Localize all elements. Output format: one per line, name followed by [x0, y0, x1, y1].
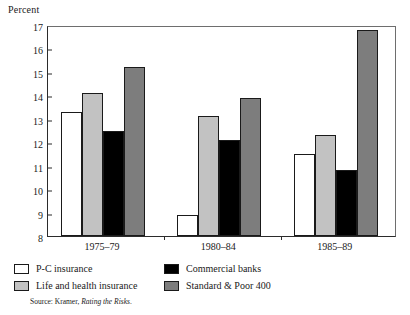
- bar: [124, 67, 145, 236]
- y-tick-label: 15: [33, 68, 48, 79]
- bar: [219, 140, 240, 236]
- y-tick-label: 12: [33, 139, 48, 150]
- bar: [336, 170, 357, 236]
- y-tickmark: [48, 120, 52, 121]
- y-tick-label: 8: [38, 233, 48, 244]
- y-tick-label: 11: [33, 162, 48, 173]
- legend-label: Standard & Poor 400: [186, 280, 271, 291]
- bar: [177, 215, 198, 236]
- plot-area: 891011121314151617: [47, 26, 396, 237]
- legend-item: Commercial banks: [164, 261, 271, 276]
- bar: [82, 93, 103, 236]
- y-tick-label: 13: [33, 115, 48, 126]
- bar: [61, 112, 82, 236]
- x-tickmark: [164, 236, 165, 240]
- y-tickmark: [48, 214, 52, 215]
- y-tickmark: [48, 191, 52, 192]
- y-tickmark: [48, 144, 52, 145]
- y-tickmark: [48, 167, 52, 168]
- y-tick-label: 14: [33, 92, 48, 103]
- bar: [103, 131, 124, 237]
- legend-item: Life and health insurance: [14, 278, 137, 293]
- source-suffix: .: [130, 297, 132, 306]
- legend-label: P-C insurance: [36, 263, 92, 274]
- legend-column-right: Commercial banksStandard & Poor 400: [164, 261, 271, 295]
- y-tick-label: 17: [33, 22, 48, 33]
- legend-swatch: [164, 264, 179, 274]
- x-axis-label: 1980–84: [201, 241, 236, 252]
- bar: [294, 154, 315, 236]
- x-axis-label: 1975–79: [85, 241, 120, 252]
- source-note: Source: Kramer, Rating the Risks.: [30, 297, 132, 306]
- y-axis-title: Percent: [8, 4, 39, 15]
- legend-swatch: [14, 264, 29, 274]
- legend-column-left: P-C insuranceLife and health insurance: [14, 261, 137, 295]
- legend-label: Commercial banks: [186, 263, 261, 274]
- legend-swatch: [164, 281, 179, 291]
- legend-item: P-C insurance: [14, 261, 137, 276]
- y-tickmark: [48, 97, 52, 98]
- y-tick-label: 9: [38, 209, 48, 220]
- legend-label: Life and health insurance: [36, 280, 137, 291]
- legend-item: Standard & Poor 400: [164, 278, 271, 293]
- bar: [240, 98, 261, 236]
- bar: [198, 116, 219, 236]
- x-tickmark: [281, 236, 282, 240]
- source-prefix: Source: Kramer,: [30, 297, 81, 306]
- y-tickmark: [48, 73, 52, 74]
- bar: [357, 30, 378, 236]
- source-title: Rating the Risks: [81, 297, 130, 306]
- y-tick-label: 10: [33, 186, 48, 197]
- bar: [315, 135, 336, 236]
- y-tickmark: [48, 50, 52, 51]
- bar-chart-figure: Percent 891011121314151617 1975–791980–8…: [0, 0, 410, 315]
- legend-swatch: [14, 281, 29, 291]
- y-tick-label: 16: [33, 45, 48, 56]
- x-axis-label: 1985–89: [317, 241, 352, 252]
